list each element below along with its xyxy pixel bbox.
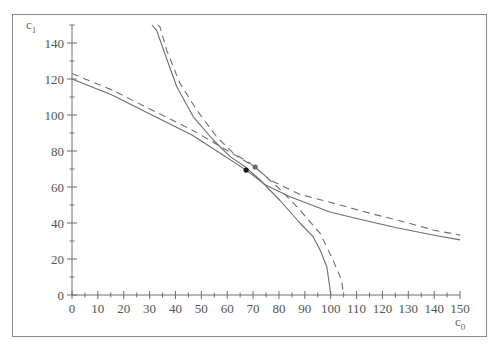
x-tick-label: 80 <box>272 301 285 316</box>
x-tick-label: 100 <box>321 301 341 316</box>
x-tick-label: 20 <box>117 301 130 316</box>
x-tick-label: 120 <box>373 301 393 316</box>
x-tick-label: 50 <box>195 301 208 316</box>
x-tick-label: 90 <box>298 301 311 316</box>
x-tick-label: 70 <box>247 301 260 316</box>
x-tick-label: 40 <box>169 301 182 316</box>
axes: 0102030405060708090100110120130140150020… <box>45 25 470 316</box>
optimum-point-1 <box>253 164 258 169</box>
x-tick-label: 110 <box>347 301 366 316</box>
y-tick-label: 60 <box>51 180 64 195</box>
series-line-3 <box>72 74 460 236</box>
x-axis-label: c0 <box>455 314 466 332</box>
y-tick-label: 140 <box>45 36 65 51</box>
chart: 0102030405060708090100110120130140150020… <box>0 0 498 352</box>
series-line-2 <box>72 79 460 240</box>
series-layer <box>72 25 460 295</box>
y-tick-label: 100 <box>45 108 65 123</box>
optimum-point-0 <box>244 167 249 172</box>
y-tick-label: 20 <box>51 252 64 267</box>
y-tick-label: 0 <box>58 288 65 303</box>
y-tick-label: 120 <box>45 72 65 87</box>
series-line-1 <box>158 25 344 295</box>
y-tick-label: 40 <box>51 216 64 231</box>
x-tick-label: 30 <box>143 301 156 316</box>
x-tick-label: 140 <box>424 301 444 316</box>
x-tick-label: 60 <box>221 301 234 316</box>
y-tick-label: 80 <box>51 144 64 159</box>
x-tick-label: 10 <box>91 301 104 316</box>
y-axis-label: c1 <box>26 17 36 35</box>
x-tick-label: 0 <box>69 301 76 316</box>
series-line-0 <box>152 25 331 295</box>
x-tick-label: 130 <box>399 301 419 316</box>
